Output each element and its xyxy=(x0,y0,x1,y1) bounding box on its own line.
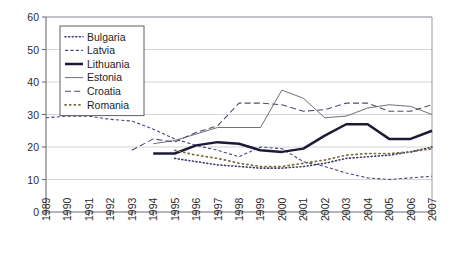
y-tick-label: 30 xyxy=(27,109,39,121)
x-tick-label: 1999 xyxy=(254,197,266,221)
x-tick-label: 2006 xyxy=(405,197,417,221)
x-tick-label: 1989 xyxy=(40,197,52,221)
y-tick-label: 20 xyxy=(27,141,39,153)
x-tick-label: 2007 xyxy=(426,197,438,221)
x-tick-label: 2000 xyxy=(276,197,288,221)
legend-label-latvia: Latvia xyxy=(87,44,115,56)
x-tick-label: 2001 xyxy=(297,197,309,221)
x-tick-label: 1992 xyxy=(104,197,116,221)
y-tick-label: 50 xyxy=(27,44,39,56)
legend-label-croatia: Croatia xyxy=(87,85,121,97)
legend-box: BulgariaLatviaLithuaniaEstoniaCroatiaRom… xyxy=(60,26,144,116)
legend-label-bulgaria: Bulgaria xyxy=(87,31,126,43)
y-tick-label: 40 xyxy=(27,76,39,88)
x-tick-label: 1995 xyxy=(169,197,181,221)
x-tick-label: 2002 xyxy=(319,197,331,221)
x-tick-label: 2003 xyxy=(340,197,352,221)
legend-label-lithuania: Lithuania xyxy=(87,58,130,70)
x-tick-label: 1997 xyxy=(212,197,224,221)
x-tick-label: 1998 xyxy=(233,197,245,221)
legend-label-estonia: Estonia xyxy=(87,71,122,83)
x-tick-label: 2004 xyxy=(362,197,374,221)
y-tick-label: 10 xyxy=(27,174,39,186)
x-tick-label: 1994 xyxy=(147,197,159,221)
x-tick-label: 1990 xyxy=(61,197,73,221)
x-tick-label: 2005 xyxy=(383,197,395,221)
chart-canvas: 0102030405060 19891990199119921993199419… xyxy=(0,0,451,263)
x-tick-label: 1993 xyxy=(126,197,138,221)
x-tick-label: 1996 xyxy=(190,197,202,221)
line-chart: 0102030405060 19891990199119921993199419… xyxy=(0,0,451,263)
y-tick-label: 0 xyxy=(33,206,39,218)
legend-label-romania: Romania xyxy=(87,99,129,111)
y-tick-label: 60 xyxy=(27,11,39,23)
x-tick-label: 1991 xyxy=(83,197,95,221)
